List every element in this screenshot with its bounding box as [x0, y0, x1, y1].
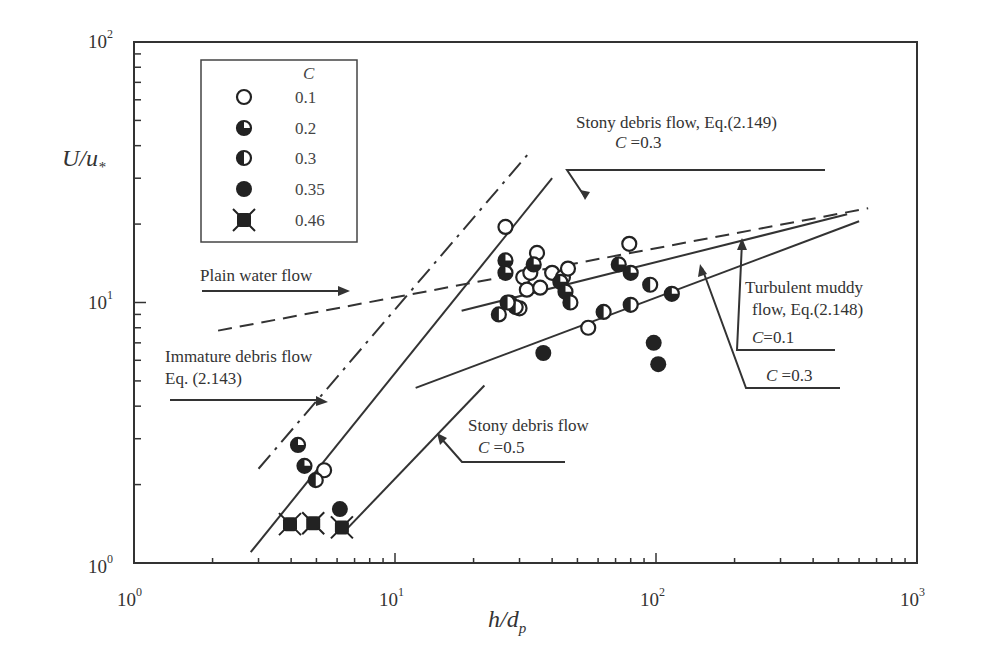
legend-label: 0.3 [295, 149, 316, 169]
legend-box [201, 60, 357, 242]
annotation-c03: C =0.3 [766, 366, 812, 386]
data-point [291, 438, 305, 452]
annotation-stony-debris: Stony debris flow [468, 416, 589, 436]
x-tick-label: 102 [640, 588, 665, 611]
data-point [309, 473, 323, 487]
legend-label: 0.46 [295, 211, 325, 231]
data-point [624, 298, 638, 312]
annotation-immature-2: Eq. (2.143) [165, 369, 242, 389]
data-point [581, 321, 595, 335]
data-point [643, 278, 657, 292]
data-point [561, 262, 575, 276]
y-tick-label: 100 [88, 555, 113, 578]
legend-markers [233, 90, 255, 231]
annotation-c01: C=0.1 [752, 328, 794, 348]
legend-marker-icon [237, 151, 251, 165]
chart-canvas [0, 0, 984, 652]
data-point [332, 501, 348, 517]
data-point [646, 335, 662, 351]
annotation-c05: C =0.5 [478, 438, 524, 458]
x-tick-label: 103 [900, 588, 925, 611]
legend-title: C [303, 64, 314, 84]
annotation-turbulent-2: flow, Eq.(2.148) [752, 300, 863, 320]
legend-label: 0.35 [295, 180, 325, 200]
data-point [302, 512, 324, 534]
data-point [665, 287, 679, 301]
annotation-immature-1: Immature debris flow [165, 347, 312, 367]
data-point [501, 296, 515, 310]
annotation-turbulent-1: Turbulent muddy [745, 278, 863, 298]
data-point [563, 296, 577, 310]
legend-label: 0.2 [295, 119, 316, 139]
data-point [520, 283, 534, 297]
legend-label: 0.1 [295, 88, 316, 108]
annotation-stony-debris-eq2149: Stony debris flow, Eq.(2.149) [576, 113, 777, 133]
x-axis-title: h/dp [488, 606, 526, 637]
x-tick-label: 100 [117, 588, 142, 611]
data-point [498, 266, 512, 280]
data-point [279, 513, 301, 535]
data-point [650, 356, 666, 372]
y-axis-title: U/u* [62, 145, 106, 176]
annotation-plain-water: Plain water flow [200, 266, 312, 286]
data-point [498, 220, 512, 234]
x-tick-label: 101 [379, 588, 404, 611]
data-point [624, 266, 638, 280]
data-point [622, 237, 636, 251]
data-point [297, 459, 311, 473]
data-point [533, 281, 547, 295]
legend-marker-icon [236, 181, 252, 197]
y-tick-label: 102 [88, 30, 113, 53]
legend-marker-icon [237, 90, 251, 104]
data-point [527, 257, 541, 271]
data-point [535, 345, 551, 361]
legend-marker-icon [237, 121, 251, 135]
annotation-c03-top: C =0.3 [615, 133, 661, 153]
y-tick-label: 101 [88, 291, 113, 314]
data-point [597, 305, 611, 319]
legend-marker-icon [233, 209, 255, 231]
